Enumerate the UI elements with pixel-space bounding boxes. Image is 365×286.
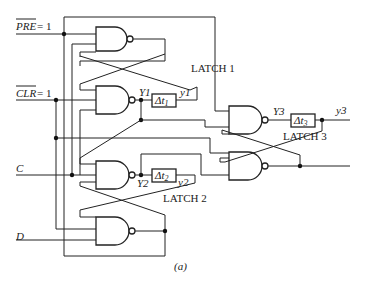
nand-gate-4 [229, 152, 268, 180]
nand-gate-2 [96, 86, 135, 114]
logic-circuit-diagram: PRE = 1 CLR = 1 C D [0, 0, 365, 286]
y1-label: y1 [179, 86, 190, 98]
clr-to-gate4-wire [56, 138, 229, 153]
y3-label: y3 [335, 104, 347, 116]
nand-gate-1 [96, 27, 133, 51]
Y2-label: Y2 [137, 177, 149, 189]
latch1-label: LATCH 1 [191, 62, 235, 74]
input-clr: CLR = 1 [16, 86, 51, 99]
nand-gate-6 [96, 217, 135, 245]
y1-to-gate3-wire [141, 120, 229, 127]
nand-gate-5 [96, 161, 135, 189]
clr-label: CLR [16, 87, 36, 99]
clr-branch-junction [54, 136, 58, 140]
nand-gate-3 [229, 106, 268, 134]
gate6-out-junction [163, 229, 167, 233]
input-pre: PRE = 1 [15, 19, 51, 32]
pre-eq: = 1 [37, 20, 51, 32]
input-c-label: C [16, 162, 24, 174]
y2-label: y2 [177, 176, 189, 188]
Y1-label: Y1 [139, 86, 151, 98]
Y3-label: Y3 [273, 105, 285, 117]
latch2-label: LATCH 2 [163, 192, 207, 204]
y1-to-gate5-wire [80, 120, 141, 164]
clr-eq: = 1 [37, 87, 51, 99]
pre-label: PRE [15, 20, 36, 32]
gate2-lower-input-wire [80, 110, 96, 175]
clr-junction [54, 98, 58, 102]
c-junction [70, 173, 74, 177]
pre-junction [62, 32, 66, 36]
latch1-stub-b [80, 84, 96, 90]
figure-caption: (a) [174, 260, 187, 273]
latch3-label: LATCH 3 [283, 130, 327, 142]
